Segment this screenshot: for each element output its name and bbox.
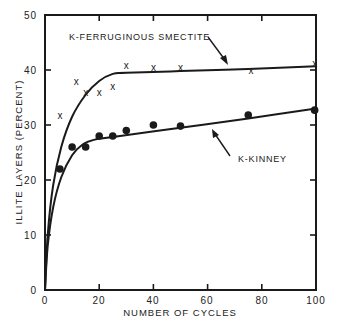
x-tick-80: 80	[255, 295, 268, 306]
y-tick-10: 10	[24, 230, 37, 241]
x-tick-0: 0	[42, 295, 49, 306]
y-tick-50: 50	[24, 10, 37, 21]
kinney-fit-curve	[45, 109, 316, 291]
smectite-point-marker: x	[83, 87, 88, 98]
kinney-point-marker	[244, 111, 252, 119]
kinney-arrow-line	[215, 134, 230, 156]
chart-canvas: 0 20 40 60 80 100 0 10 20 30 40 50 NUMBE…	[0, 0, 339, 336]
x-axis-title: NUMBER OF CYCLES	[123, 307, 237, 318]
smectite-arrow-head	[220, 55, 228, 65]
kinney-point-marker	[311, 106, 319, 114]
kinney-arrow-head	[212, 129, 219, 138]
smectite-point-marker: x	[312, 58, 317, 69]
kinney-point-marker	[123, 127, 131, 135]
smectite-point-marker: x	[97, 87, 102, 98]
kinney-point-marker	[109, 132, 117, 140]
plot-frame	[45, 15, 316, 290]
y-tick-40: 40	[24, 65, 37, 76]
x-tick-20: 20	[92, 295, 105, 306]
smectite-point-marker: x	[248, 65, 253, 76]
smectite-point-marker: x	[57, 110, 62, 121]
smectite-point-marker: x	[178, 62, 183, 73]
y-axis-title: ILLITE LAYERS (PERCENT)	[13, 80, 24, 225]
kinney-point-marker	[68, 143, 76, 151]
smectite-point-marker: x	[151, 62, 156, 73]
kinney-point-marker	[56, 165, 64, 173]
smectite-point-marker: x	[124, 60, 129, 71]
y-tick-20: 20	[24, 175, 37, 186]
smectite-point-marker: x	[110, 81, 115, 92]
smectite-arrow-line	[208, 37, 225, 60]
kinney-label: K-KINNEY	[238, 154, 287, 164]
y-tick-0: 0	[30, 285, 37, 296]
axis-ticks	[45, 15, 316, 290]
x-tick-40: 40	[146, 295, 159, 306]
x-tick-100: 100	[306, 295, 326, 306]
smectite-point-marker: x	[74, 76, 79, 87]
smectite-fit-curve	[45, 66, 316, 290]
kinney-point-marker	[177, 122, 185, 130]
kinney-point-marker	[82, 143, 90, 151]
kinney-point-marker	[95, 132, 103, 140]
y-tick-30: 30	[24, 120, 37, 131]
smectite-label: K-FERRUGINOUS SMECTITE	[69, 32, 210, 42]
x-tick-60: 60	[200, 295, 213, 306]
kinney-point-marker	[150, 121, 158, 129]
fit-curves	[45, 66, 316, 290]
